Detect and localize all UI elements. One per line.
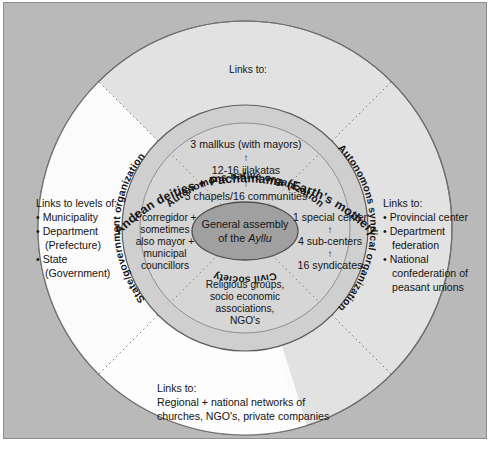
civil-line-1: Religious groups,	[206, 279, 285, 290]
syndical-links-item-2: federation	[392, 239, 439, 251]
state-line-4: municipal	[143, 248, 186, 259]
center-line-2-prefix: of the	[218, 232, 248, 244]
syndical-links-item-5: peasant unions	[392, 281, 464, 293]
center-node: General assembly of the Ayllu	[192, 202, 298, 260]
syndical-links-item-1: • Department	[383, 225, 445, 237]
top-links-to-label: Links to:	[229, 64, 267, 75]
syndical-links-item-0: • Provincial center	[383, 211, 468, 223]
civil-line-4: NGO's	[230, 315, 260, 326]
state-links-item-4: (Government)	[45, 267, 110, 279]
state-links-item-1: • Department	[36, 225, 98, 237]
center-line-2: of the Ayllu	[218, 232, 271, 244]
center-line-2-italic: Ayllu	[247, 232, 271, 244]
civil-line-2: socio economic	[210, 291, 280, 302]
civil-links-line-1: Regional + national networks of	[157, 396, 305, 408]
state-links-heading: Links to levels of:	[36, 197, 117, 209]
syndical-line-2: 4 sub-centers	[298, 235, 362, 247]
syndical-line-3: 16 syndicates	[298, 259, 363, 271]
syndical-links-block: Links to: • Provincial center • Departme…	[383, 197, 468, 293]
center-line-1: General assembly	[201, 218, 289, 230]
state-government-content: 1 corregidor + sometimes also mayor + mu…	[133, 212, 196, 271]
syndical-organization-content: 1 special center ↑ 4 sub-centers ↑ 16 sy…	[293, 211, 368, 271]
syndical-arrow-1: ↑	[328, 224, 333, 235]
syndical-arrow-2: ↑	[328, 248, 333, 259]
civil-line-3: associations,	[216, 303, 275, 314]
native-line-3: 3 chapels/16 communities	[185, 190, 307, 202]
state-line-2: sometimes	[140, 224, 189, 235]
diagram-page: General assembly of the Ayllu Andean dei…	[0, 0, 491, 462]
syndical-links-item-4: confederation of	[392, 267, 468, 279]
state-links-item-0: • Municipality	[36, 211, 99, 223]
native-arrow-1: ↑	[244, 152, 249, 163]
native-line-1: 3 mallkus (with mayors)	[190, 138, 301, 150]
state-links-item-3: • State	[36, 253, 68, 265]
state-links-item-2: (Prefecture)	[45, 239, 101, 251]
syndical-line-1: 1 special center	[293, 211, 368, 223]
syndical-links-heading: Links to:	[383, 197, 422, 209]
native-line-2: 12-16 jilakatas	[212, 164, 280, 176]
syndical-links-item-3: • National	[383, 253, 429, 265]
civil-links-line-2: churches, NGO's, private companies	[157, 410, 329, 422]
native-arrow-2: ↑	[244, 178, 249, 189]
ayllu-concentric-diagram: General assembly of the Ayllu Andean dei…	[0, 0, 491, 462]
state-line-5: councillors	[141, 260, 189, 271]
state-line-3: also mayor +	[136, 236, 195, 247]
state-line-1: 1 corregidor +	[133, 212, 196, 223]
civil-links-heading: Links to:	[157, 382, 196, 394]
